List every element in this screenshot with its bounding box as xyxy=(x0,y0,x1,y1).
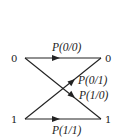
input-node-1: 1 xyxy=(11,114,17,125)
edge-1-to-1 xyxy=(25,116,101,122)
arrowhead-icon xyxy=(52,116,60,122)
edge-label-p01: P(0/1) xyxy=(77,74,108,87)
arrowhead-icon xyxy=(68,91,76,98)
edge-0-to-0 xyxy=(25,55,101,61)
arrowhead-icon xyxy=(52,55,60,61)
edge-label-p00: P(0/0) xyxy=(51,41,82,54)
binary-channel-diagram: 0 0 1 1 P(0/0) P(0/1) P(1/0) P(1/1) xyxy=(0,0,124,139)
input-node-0: 0 xyxy=(11,53,17,64)
output-node-0: 0 xyxy=(105,53,111,64)
arrowhead-icon xyxy=(68,79,76,86)
edge-label-p10: P(1/0) xyxy=(78,89,109,102)
edge-label-p11: P(1/1) xyxy=(51,124,82,137)
output-node-1: 1 xyxy=(105,114,111,125)
